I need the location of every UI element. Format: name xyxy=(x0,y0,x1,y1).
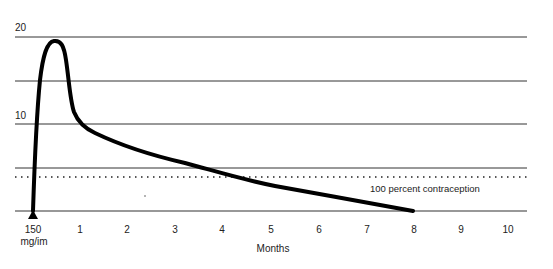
x-tick-5: 5 xyxy=(268,224,274,235)
x-tick-9: 9 xyxy=(458,224,464,235)
chart-canvas: 20 10 100 percent contraception 150 mg/i… xyxy=(0,0,553,269)
x-tick-6: 6 xyxy=(316,224,322,235)
x-tick-2: 2 xyxy=(124,224,130,235)
x-tick-0-sub: mg/im xyxy=(20,236,47,247)
stray-dot xyxy=(144,195,146,197)
x-tick-0: 150 xyxy=(25,224,42,235)
x-tick-10: 10 xyxy=(502,224,514,235)
x-tick-4: 4 xyxy=(219,224,225,235)
x-axis-title: Months xyxy=(257,243,290,254)
x-tick-7: 7 xyxy=(364,224,370,235)
contraception-label: 100 percent contraception xyxy=(370,183,480,194)
x-tick-3: 3 xyxy=(172,224,178,235)
y-tick-20: 20 xyxy=(15,22,27,33)
y-tick-10: 10 xyxy=(15,110,27,121)
serum-level-curve xyxy=(33,41,413,211)
x-tick-8: 8 xyxy=(411,224,417,235)
x-tick-1: 1 xyxy=(77,224,83,235)
